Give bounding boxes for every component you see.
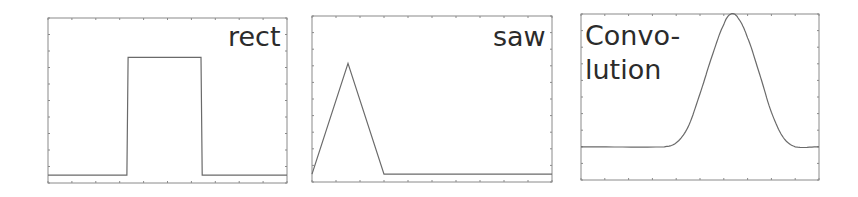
rect-curve: [48, 57, 287, 175]
convolution-plot: Convo- lution: [581, 14, 819, 180]
rect-plot: rect: [48, 18, 287, 183]
convolution-label-line1: Convo-: [585, 20, 680, 51]
rect-label: rect: [228, 21, 281, 52]
charts-canvas: rect saw Convo- lution: [0, 0, 858, 197]
saw-plot: saw: [312, 16, 552, 182]
convolution-label-line2: lution: [585, 54, 661, 85]
saw-label: saw: [493, 21, 546, 52]
saw-curve: [312, 63, 552, 174]
